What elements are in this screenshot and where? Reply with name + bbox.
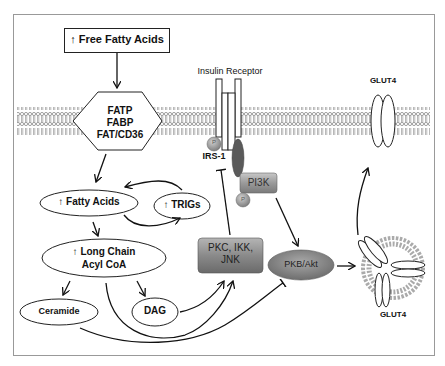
- insulin-receptor-label: Insulin Receptor: [190, 66, 270, 76]
- long-chain-acyl-coa-label: ↑ Long Chain Acyl CoA: [42, 245, 166, 271]
- ceramide-label: Ceramide: [20, 306, 98, 316]
- transporter-fabp: FABP: [85, 117, 155, 129]
- pkb-akt-label: PKB/Akt: [268, 259, 334, 269]
- pkc-line1: PKC, IKK,: [198, 242, 263, 254]
- pkc-ikk-jnk-label: PKC, IKK, JNK: [198, 242, 263, 266]
- pi3k-phospho-label: P: [237, 196, 249, 202]
- glut4-vesicle-label: GLUT4: [373, 310, 413, 319]
- long-chain-line2: Acyl CoA: [42, 258, 166, 271]
- irs1-label: IRS-1: [199, 151, 229, 161]
- adapter-protein-icon: [232, 139, 244, 177]
- free-fatty-acids-label: ↑ Free Fatty Acids: [64, 33, 170, 45]
- glut4-membrane-transporter: [371, 95, 395, 147]
- dag-label: DAG: [132, 305, 178, 316]
- glut4-membrane-label: GLUT4: [363, 76, 403, 85]
- pkc-line2: JNK: [198, 254, 263, 266]
- fatty-acids-label: ↑ Fatty Acids: [40, 196, 138, 207]
- transporter-fat-cd36: FAT/CD36: [85, 129, 155, 141]
- long-chain-line1: ↑ Long Chain: [42, 245, 166, 258]
- trigs-label: ↑ TRIGs: [154, 199, 210, 210]
- irs1-phospho-label: P: [208, 139, 220, 145]
- insulin-signaling-diagram: ↑ Free Fatty Acids FATP FABP FAT/CD36 In…: [0, 0, 445, 366]
- transporter-label: FATP FABP FAT/CD36: [85, 105, 155, 141]
- pi3k-label: PI3K: [240, 177, 277, 188]
- transporter-fatp: FATP: [85, 105, 155, 117]
